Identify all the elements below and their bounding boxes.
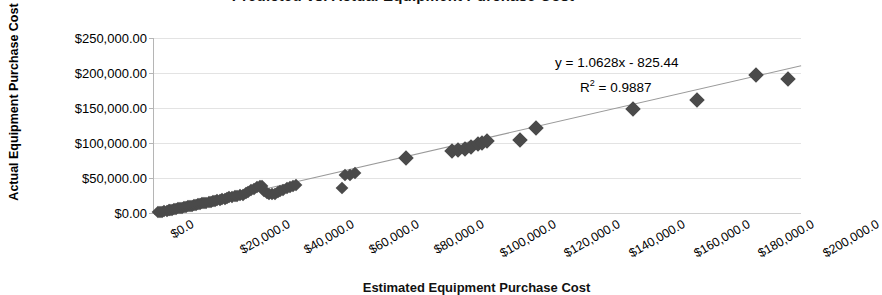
y-axis-tick <box>149 108 154 109</box>
y-axis-tick-label: $250,000.00 <box>1 31 147 46</box>
y-axis-tick-label: $100,000.00 <box>1 136 147 151</box>
x-axis-tick-label: $40,000.0 <box>302 217 357 257</box>
x-axis-tick-label: $100,000.0 <box>497 217 558 260</box>
r-squared-annotation: R2 = 0.9887 <box>580 78 651 95</box>
gridline <box>154 38 801 39</box>
y-axis-tick-label: $50,000.00 <box>1 171 147 186</box>
y-axis-tick <box>149 178 154 179</box>
data-point <box>528 120 544 136</box>
x-axis-tick-label: $20,000.0 <box>237 217 292 257</box>
gridline <box>154 178 801 179</box>
x-axis-tick-label: $180,000.0 <box>756 217 817 260</box>
chart-title: Predicted vs. Actual Equipment Purchase … <box>0 0 806 4</box>
x-axis-tick-label: $80,000.0 <box>431 217 486 257</box>
x-axis-tick-label: $60,000.0 <box>367 217 422 257</box>
x-axis-tick-label: $140,000.0 <box>626 217 687 260</box>
data-point <box>335 181 348 194</box>
data-point <box>512 132 528 148</box>
x-axis-tick-label: $120,000.0 <box>562 217 623 260</box>
x-axis-tick-label: $200,000.0 <box>820 217 881 260</box>
data-point <box>399 150 415 166</box>
x-axis-tick-label: $0.0 <box>168 217 196 241</box>
data-point <box>690 93 706 109</box>
y-axis-tick-label: $150,000.00 <box>1 101 147 116</box>
trendline-equation-annotation: y = 1.0628x - 825.44 <box>555 55 678 70</box>
y-axis-tick <box>149 143 154 144</box>
y-axis-tick-labels: $0.00$50,000.00$100,000.00$150,000.00$20… <box>0 38 147 213</box>
gridline <box>154 73 801 74</box>
gridline <box>154 108 801 109</box>
x-axis-title: Estimated Equipment Purchase Cost <box>153 280 800 295</box>
y-axis-tick <box>149 38 154 39</box>
y-axis-tick-label: $200,000.00 <box>1 66 147 81</box>
y-axis-tick <box>149 73 154 74</box>
x-axis-tick-labels: $0.0$20,000.0$40,000.0$60,000.0$80,000.0… <box>153 213 800 289</box>
x-axis-tick-label: $160,000.0 <box>691 217 752 260</box>
y-axis-tick-label: $0.00 <box>1 206 147 221</box>
plot-area <box>153 38 801 213</box>
data-point <box>748 67 764 83</box>
